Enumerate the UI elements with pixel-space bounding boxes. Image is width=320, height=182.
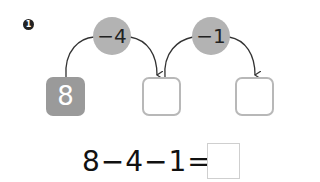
start-value-box: 8 — [46, 77, 85, 116]
operator-circle-minus-1: −1 — [192, 17, 230, 55]
answer-box-2[interactable] — [235, 77, 274, 116]
operator-circle-minus-4: −4 — [93, 17, 131, 55]
answer-box-1[interactable] — [142, 77, 181, 116]
equation-text: 8−4−1= — [82, 144, 212, 180]
equation-answer-box[interactable] — [207, 143, 240, 179]
